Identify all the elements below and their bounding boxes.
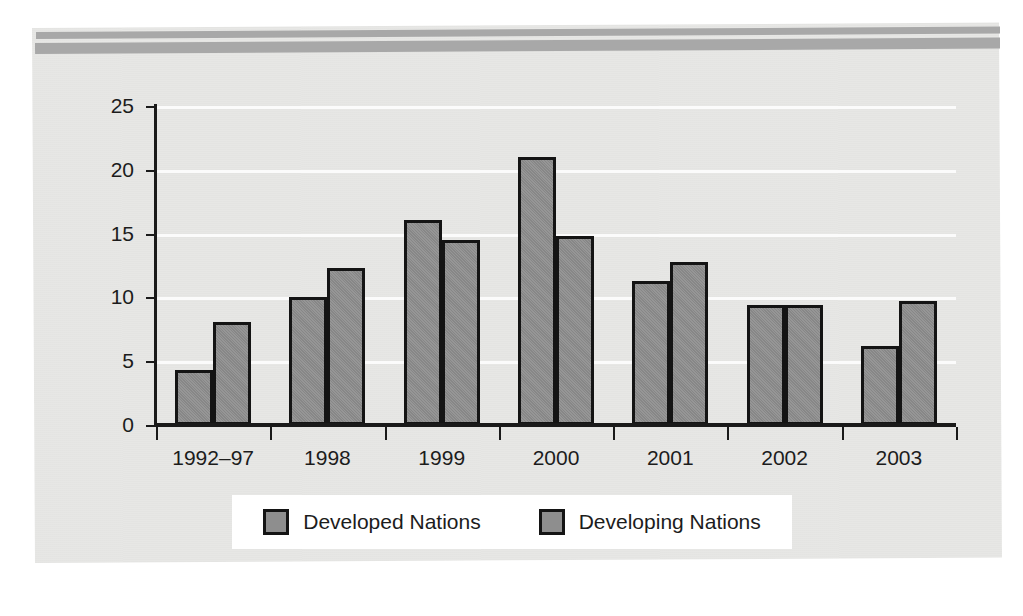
x-axis-tick [727,427,729,440]
y-axis-tick [146,297,156,299]
bar [442,240,480,425]
bar [175,370,213,425]
bar [518,157,556,425]
x-axis-tick-label: 2000 [499,446,613,470]
x-axis-tick [842,427,844,440]
legend-swatch-icon [539,509,565,535]
x-axis-tick-label: 2003 [842,446,956,470]
x-axis-tick [156,427,158,440]
x-axis-tick-label: 2002 [727,446,841,470]
y-axis-tick [146,106,156,108]
y-axis-tick-label: 15 [88,223,134,244]
y-axis-tick-label: 25 [88,95,134,116]
x-axis-tick [956,427,958,440]
bar [632,281,670,425]
y-axis-tick [146,170,156,172]
legend-item-developed: Developed Nations [263,509,480,535]
chart-legend: Developed Nations Developing Nations [232,495,792,549]
legend-item-developing: Developing Nations [539,509,761,535]
bar [213,322,251,425]
gridline [156,106,956,109]
bar [404,220,442,425]
bar [327,268,365,425]
y-axis-tick [146,425,156,427]
bar [670,262,708,425]
x-axis-tick [613,427,615,440]
y-axis-line [154,104,157,427]
bar [747,305,785,425]
legend-label: Developed Nations [303,510,480,534]
x-axis-tick-label: 1992–97 [156,446,270,470]
x-axis-tick-label: 1999 [385,446,499,470]
bar [289,297,327,425]
plot-area [156,106,956,425]
bar [861,346,899,425]
legend-label: Developing Nations [579,510,761,534]
y-axis-tick-labels: 0510152025 [88,0,134,616]
y-axis-tick-label: 20 [88,159,134,180]
x-axis-tick-labels: 1992–97199819992000200120022003 [156,446,956,480]
bar [785,305,823,425]
gridline [156,170,956,173]
y-axis-tick [146,234,156,236]
x-axis-tick-label: 2001 [613,446,727,470]
x-axis-tick [499,427,501,440]
y-axis-tick-label: 10 [88,286,134,307]
bar [899,301,937,425]
bar [556,236,594,425]
x-axis-tick [385,427,387,440]
x-axis-tick-label: 1998 [270,446,384,470]
chart-page: 0510152025 1992–971998199920002001200220… [0,0,1023,616]
x-axis-tick [270,427,272,440]
x-axis-line [154,423,956,427]
y-axis-tick-label: 5 [88,350,134,371]
legend-swatch-icon [263,509,289,535]
y-axis-tick [146,361,156,363]
y-axis-tick-label: 0 [88,414,134,435]
